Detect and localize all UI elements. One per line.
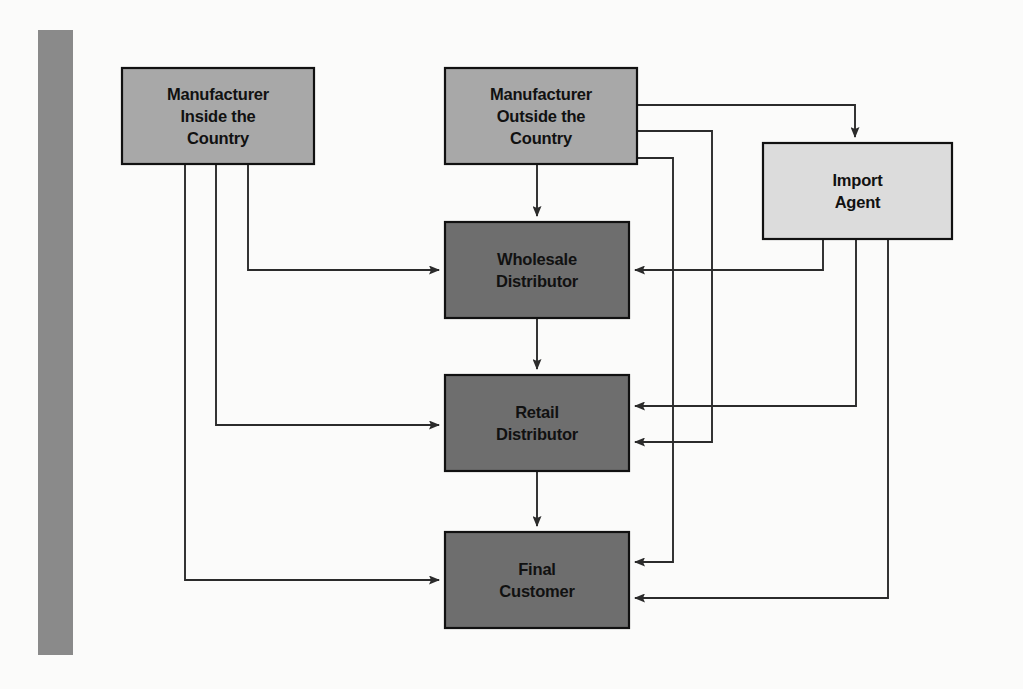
node-label-manufacturer-outside-line-3: Country xyxy=(510,129,573,147)
node-retail-distributor[interactable]: RetailDistributor xyxy=(445,375,629,471)
diagram-canvas: ManufacturerInside theCountryManufacture… xyxy=(0,0,1023,689)
node-label-import-agent-line-1: Import xyxy=(832,171,883,189)
flowchart-svg: ManufacturerInside theCountryManufacture… xyxy=(0,0,1023,689)
node-label-final-customer-line-1: Final xyxy=(518,560,556,578)
node-label-manufacturer-inside-line-1: Manufacturer xyxy=(167,85,270,103)
edge-inside-to-wholesale xyxy=(248,164,439,270)
node-label-manufacturer-inside-line-3: Country xyxy=(187,129,250,147)
node-box-final-customer[interactable] xyxy=(445,532,629,628)
node-final-customer[interactable]: FinalCustomer xyxy=(445,532,629,628)
node-manufacturer-outside[interactable]: ManufacturerOutside theCountry xyxy=(445,68,637,164)
node-label-import-agent-line-2: Agent xyxy=(835,193,881,211)
node-box-wholesale-distributor[interactable] xyxy=(445,222,629,318)
node-label-manufacturer-outside-line-2: Outside the xyxy=(497,107,586,125)
node-wholesale-distributor[interactable]: WholesaleDistributor xyxy=(445,222,629,318)
edge-inside-to-retail xyxy=(216,164,439,425)
edge-inside-to-final xyxy=(185,164,439,580)
node-box-retail-distributor[interactable] xyxy=(445,375,629,471)
node-label-wholesale-distributor-line-1: Wholesale xyxy=(497,250,577,268)
edge-import-agent-to-wholesale xyxy=(635,239,823,270)
node-label-final-customer-line-2: Customer xyxy=(499,582,575,600)
node-label-wholesale-distributor-line-2: Distributor xyxy=(496,272,579,290)
edge-outside-to-final xyxy=(635,158,673,562)
node-label-retail-distributor-line-2: Distributor xyxy=(496,425,579,443)
node-label-retail-distributor-line-1: Retail xyxy=(515,403,559,421)
node-manufacturer-inside[interactable]: ManufacturerInside theCountry xyxy=(122,68,314,164)
node-box-import-agent[interactable] xyxy=(763,143,952,239)
edge-outside-to-import-agent xyxy=(637,105,855,137)
node-label-manufacturer-outside-line-1: Manufacturer xyxy=(490,85,593,103)
node-label-manufacturer-inside-line-2: Inside the xyxy=(180,107,255,125)
node-import-agent[interactable]: ImportAgent xyxy=(763,143,952,239)
